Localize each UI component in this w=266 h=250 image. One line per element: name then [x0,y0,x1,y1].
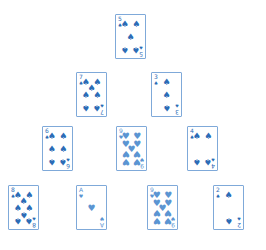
heart-icon: ♥ [99,216,105,222]
spade-icon: ♠ [153,80,159,86]
spade-icon: ♠ [236,216,242,222]
spade-icon: ♠ [47,156,56,165]
spade-icon: ♠ [93,102,102,111]
spade-icon: ♠ [59,132,68,141]
spade-icon: ♠ [224,191,233,200]
spade-icon: ♠ [204,156,213,165]
spade-icon: ♠ [162,102,171,111]
spade-icon: ♠ [126,32,135,41]
heart-icon: ♥ [121,157,130,166]
heart-icon: ♥ [133,157,142,166]
spade-icon: ♠ [162,90,171,99]
card-corner-index: 2♠ [236,216,242,228]
heart-icon: ♥ [152,216,161,225]
spade-icon: ♠ [81,90,90,99]
spade-icon: ♠ [162,78,171,87]
spade-icon: ♠ [81,102,90,111]
spade-icon: ♠ [174,103,180,109]
spade-icon: ♠ [192,156,201,165]
spade-icon: ♠ [93,90,102,99]
spade-icon: ♠ [25,215,34,224]
card-9-of-hearts[interactable]: 9♥9♥♥♥♥♥♥♥♥♥♥ [147,185,178,230]
spade-icon: ♠ [13,215,22,224]
spade-icon: ♠ [192,132,201,141]
card-2-of-spades[interactable]: 2♠2♠♠♠ [213,185,244,230]
card-corner-index: A♥ [99,216,105,228]
card-rank: 2 [236,222,242,228]
card-4-of-spades[interactable]: 4♠4♠♠♠♠♠ [187,126,218,171]
card-corner-index: A♥ [78,187,84,199]
card-9-of-hearts[interactable]: 9♥9♥♥♥♥♥♥♥♥♥♥ [116,126,147,171]
card-rank: A [99,222,105,228]
card-7-of-spades[interactable]: 7♠7♠♠♠♠♠♠♠♠ [76,72,107,117]
spade-icon: ♠ [59,144,68,153]
heart-icon: ♥ [87,203,96,212]
card-corner-index: 2♠ [215,187,221,199]
card-corner-index: 3♠ [153,74,159,86]
spade-icon: ♠ [224,215,233,224]
heart-icon: ♥ [164,216,173,225]
spade-icon: ♠ [204,132,213,141]
card-5-of-spades[interactable]: 5♠5♠♠♠♠♠♠ [115,14,146,59]
card-a-of-hearts[interactable]: A♥A♥♥ [76,185,107,230]
spade-icon: ♠ [47,144,56,153]
spade-icon: ♠ [47,132,56,141]
card-8-of-spades[interactable]: 8♠8♠♠♠♠♠♠♠♠♠ [8,185,39,230]
spade-icon: ♠ [59,156,68,165]
spade-icon: ♠ [215,193,221,199]
card-corner-index: 3♠ [174,103,180,115]
spade-icon: ♠ [132,44,141,53]
spade-icon: ♠ [120,20,129,29]
spade-icon: ♠ [120,44,129,53]
card-3-of-spades[interactable]: 3♠3♠♠♠♠ [151,72,182,117]
card-pyramid: 5♠5♠♠♠♠♠♠7♠7♠♠♠♠♠♠♠♠3♠3♠♠♠♠6♠6♠♠♠♠♠♠♠9♥9… [0,0,266,250]
spade-icon: ♠ [132,20,141,29]
card-6-of-spades[interactable]: 6♠6♠♠♠♠♠♠♠ [42,126,73,171]
card-rank: 3 [174,109,180,115]
heart-icon: ♥ [78,193,84,199]
